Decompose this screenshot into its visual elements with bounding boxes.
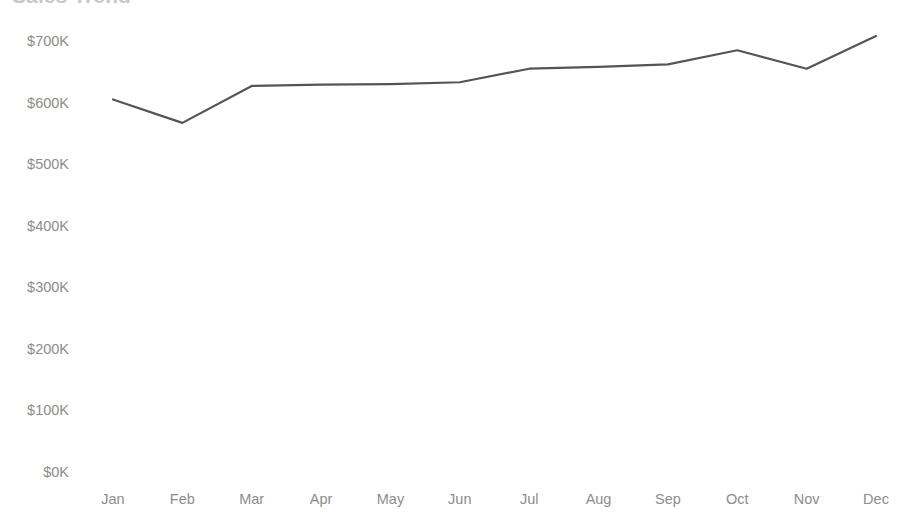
y-tick-label: $400K bbox=[0, 218, 78, 233]
x-tick-label: Nov bbox=[794, 492, 820, 507]
y-tick-label: $100K bbox=[0, 403, 78, 418]
sales-line-series[interactable] bbox=[113, 36, 876, 123]
y-tick-label: $300K bbox=[0, 280, 78, 295]
plot-area bbox=[78, 0, 900, 490]
x-tick-label: Mar bbox=[239, 492, 264, 507]
x-tick-label: Jun bbox=[448, 492, 471, 507]
x-axis: JanFebMarAprMayJunJulAugSepOctNovDec bbox=[78, 487, 900, 527]
x-tick-label: Feb bbox=[170, 492, 195, 507]
y-tick-label: $0K bbox=[0, 465, 78, 480]
series-plot bbox=[78, 0, 900, 490]
x-tick-label: May bbox=[377, 492, 404, 507]
y-tick-label: $200K bbox=[0, 342, 78, 357]
x-tick-label: Jan bbox=[101, 492, 124, 507]
x-tick-label: Dec bbox=[863, 492, 889, 507]
x-tick-label: Jul bbox=[520, 492, 539, 507]
y-tick-label: $600K bbox=[0, 95, 78, 110]
line-chart: Sales Trend $0K$100K$200K$300K$400K$500K… bbox=[0, 0, 900, 527]
x-tick-label: Sep bbox=[655, 492, 681, 507]
x-tick-label: Aug bbox=[586, 492, 612, 507]
x-tick-label: Apr bbox=[310, 492, 333, 507]
y-axis: $0K$100K$200K$300K$400K$500K$600K$700K bbox=[0, 0, 78, 527]
x-tick-label: Oct bbox=[726, 492, 749, 507]
y-tick-label: $500K bbox=[0, 157, 78, 172]
y-tick-label: $700K bbox=[0, 34, 78, 49]
